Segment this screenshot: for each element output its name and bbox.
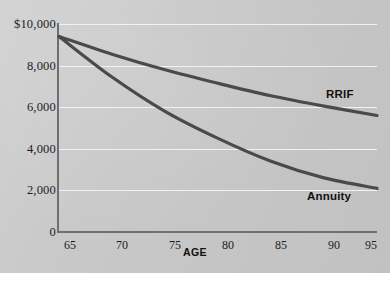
chart-curves (0, 0, 390, 291)
chart-figure: $10,000 8,000 6,000 4,000 2,000 0 65 70 … (0, 0, 390, 291)
series-label-rrif: RRIF (326, 88, 354, 100)
series-label-annuity: Annuity (307, 190, 351, 202)
series-line-rrif (59, 36, 377, 115)
series-line-annuity (59, 36, 377, 188)
